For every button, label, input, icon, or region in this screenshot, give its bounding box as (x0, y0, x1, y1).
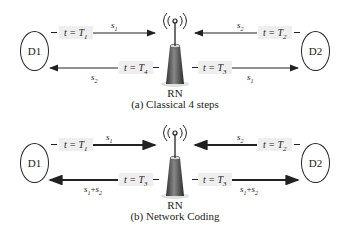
time-label: t = T1 (59, 26, 93, 39)
signal-label: s1+s2 (84, 184, 102, 196)
node-label: D2 (309, 157, 322, 169)
node-label: D1 (28, 45, 41, 57)
signal-label: s1 (247, 72, 254, 84)
node-d1-b: D1 (20, 143, 49, 183)
dash (51, 144, 57, 145)
time-label: t = T3 (198, 61, 232, 74)
dash (51, 32, 57, 33)
dash (153, 67, 159, 68)
signal-label: s2 (91, 72, 98, 84)
node-d1-a: D1 (20, 31, 49, 71)
node-d2-b: D2 (301, 143, 330, 183)
signal-label: s1 (106, 132, 113, 144)
signal-label: s2 (237, 132, 244, 144)
signal-label: s1+s2 (240, 184, 258, 196)
caption-a: (a) Classical 4 steps (0, 98, 350, 110)
time-label: t = T3 (198, 173, 232, 186)
time-label: t = T1 (59, 138, 93, 151)
time-label: t = T2 (258, 138, 292, 151)
time-label: t = T3 (119, 173, 153, 186)
signal-label: s2 (237, 20, 244, 32)
dash (153, 179, 159, 180)
node-label: D2 (309, 45, 322, 57)
signal-label: s1 (111, 20, 118, 32)
node-label: D1 (28, 157, 41, 169)
time-label: t = T2 (258, 26, 292, 39)
caption-b: (b) Network Coding (0, 210, 350, 222)
time-label: t = T4 (119, 61, 153, 74)
relay-tower-icon-b (161, 125, 189, 199)
relay-tower-icon-a (161, 13, 189, 87)
dash (294, 32, 300, 33)
node-d2-a: D2 (301, 31, 330, 71)
dash (294, 144, 300, 145)
